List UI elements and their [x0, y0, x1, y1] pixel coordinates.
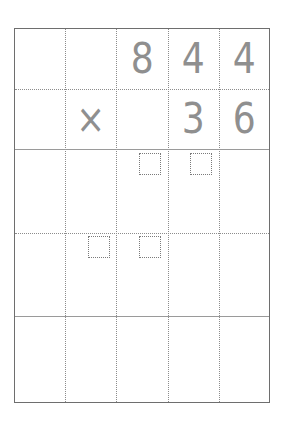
- multiplier-digit-ones: 6: [219, 89, 270, 149]
- column-divider: [65, 29, 66, 402]
- answer-rule-line: [15, 316, 269, 317]
- multiplication-grid: 8 4 4 × 3 6: [14, 28, 270, 403]
- carry-box-row4-col3[interactable]: [139, 236, 161, 258]
- row-divider: [15, 233, 269, 234]
- multiplicand-digit-hundreds: 8: [116, 29, 168, 89]
- carry-box-row3-col4[interactable]: [190, 153, 212, 175]
- multiply-sign-icon: ×: [65, 89, 116, 149]
- product-rule-line: [15, 149, 269, 150]
- multiplicand-digit-tens: 4: [168, 29, 219, 89]
- multiplier-digit-tens: 3: [168, 89, 219, 149]
- carry-box-row4-col2[interactable]: [88, 236, 110, 258]
- multiplicand-digit-ones: 4: [219, 29, 270, 89]
- carry-box-row3-col3[interactable]: [139, 153, 161, 175]
